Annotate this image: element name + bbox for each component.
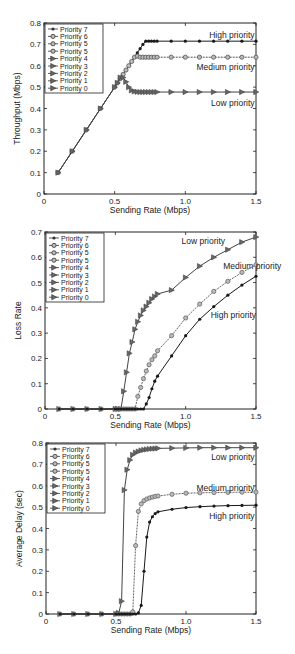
dot-marker — [126, 612, 129, 615]
dot-marker — [212, 504, 215, 507]
dot-marker — [145, 402, 148, 405]
dot-marker — [170, 354, 173, 357]
y-tick-label: 0.8 — [32, 439, 44, 448]
dot-marker — [131, 612, 134, 615]
y-tick-label: 0 — [39, 610, 44, 619]
circle-marker — [141, 377, 145, 381]
dot-marker — [212, 305, 215, 308]
dot-marker — [155, 40, 158, 43]
dot-marker — [100, 407, 103, 410]
circle-marker — [53, 462, 57, 466]
dot-marker — [156, 375, 159, 378]
dot-marker — [86, 612, 89, 615]
dot-marker — [150, 40, 153, 43]
triangle-marker — [240, 89, 245, 94]
x-tick-label: 1.5 — [250, 617, 262, 626]
dot-marker — [100, 612, 103, 615]
triangle-marker — [183, 89, 188, 94]
dot-marker — [128, 612, 131, 615]
dot-marker — [114, 612, 117, 615]
y-axis-label: Loss Rate — [13, 301, 23, 340]
y-tick-label: 0.7 — [31, 228, 43, 237]
dot-marker — [240, 504, 243, 507]
dot-marker — [57, 407, 60, 410]
dot-marker — [86, 407, 89, 410]
circle-marker — [51, 34, 55, 38]
triangle-marker — [211, 89, 216, 94]
circle-marker — [130, 59, 134, 63]
circle-marker — [53, 469, 57, 473]
triangle-marker — [197, 89, 202, 94]
triangle-marker — [128, 458, 133, 463]
y-tick-label: 0.2 — [30, 147, 42, 156]
circle-marker — [169, 55, 173, 59]
circle-marker — [134, 544, 138, 548]
y-tick-label: 0.5 — [32, 503, 44, 512]
triangle-marker — [155, 291, 160, 296]
dot-marker — [134, 612, 137, 615]
circle-marker — [170, 334, 174, 338]
dot-marker — [133, 407, 136, 410]
circle-marker — [155, 349, 159, 353]
circle-marker — [184, 316, 188, 320]
series-annotation: High priority — [211, 310, 257, 320]
series-annotation: Medium priority — [223, 261, 282, 271]
legend-label: Priority 0 — [62, 505, 90, 513]
dot-marker — [226, 294, 229, 297]
average-delay-chart: 00.51.01.500.10.20.30.40.50.60.70.8Sendi… — [14, 439, 262, 635]
x-tick-label: 1.5 — [250, 197, 262, 206]
series-annotation: High priority — [209, 511, 255, 521]
dot-marker — [53, 447, 56, 450]
circle-marker — [240, 55, 244, 59]
y-tick-label: 0.6 — [32, 482, 44, 491]
y-tick-label: 0.8 — [30, 19, 42, 28]
circle-marker — [52, 243, 56, 247]
throughput-chart: 00.51.01.500.10.20.30.40.50.60.70.8Sendi… — [12, 19, 262, 215]
figure: 00.51.01.500.10.20.30.40.50.60.70.8Sendi… — [0, 0, 295, 654]
dot-marker — [148, 520, 151, 523]
dot-marker — [226, 40, 229, 43]
dot-marker — [51, 27, 54, 30]
series-annotation: Low priority — [211, 98, 255, 108]
dot-marker — [147, 40, 150, 43]
y-tick-label: 0.1 — [32, 589, 44, 598]
triangle-marker — [226, 247, 231, 252]
triangle-marker — [225, 89, 230, 94]
legend-label: Priority 0 — [61, 294, 89, 302]
dot-marker — [72, 407, 75, 410]
y-tick-label: 0.5 — [31, 279, 43, 288]
triangle-marker — [169, 89, 174, 94]
dot-marker — [117, 407, 120, 410]
circle-marker — [150, 358, 154, 362]
circle-marker — [127, 64, 131, 68]
dot-marker — [184, 506, 187, 509]
y-tick-label: 0.1 — [30, 169, 42, 178]
triangle-marker — [212, 445, 217, 450]
dot-marker — [128, 407, 131, 410]
dot-marker — [139, 47, 142, 50]
circle-marker — [226, 55, 230, 59]
dot-marker — [226, 504, 229, 507]
y-tick-label: 0 — [38, 405, 43, 414]
dot-marker — [131, 407, 134, 410]
circle-marker — [53, 454, 57, 458]
circle-marker — [155, 55, 159, 59]
triangle-marker — [240, 240, 245, 245]
loss-rate-chart: 00.51.01.500.10.20.30.40.50.60.7Sending … — [13, 228, 282, 430]
dot-marker — [123, 612, 126, 615]
dot-marker — [150, 387, 153, 390]
dot-marker — [52, 236, 55, 239]
series-annotation: Low priority — [182, 236, 226, 246]
dot-marker — [144, 40, 147, 43]
dot-marker — [145, 535, 148, 538]
dot-marker — [170, 508, 173, 511]
y-axis-label: Average Delay (sec) — [14, 490, 24, 567]
triangle-marker — [226, 445, 231, 450]
dot-marker — [156, 510, 159, 513]
dot-marker — [140, 604, 143, 607]
dot-marker — [139, 407, 142, 410]
series-line — [60, 505, 256, 614]
dot-marker — [117, 612, 120, 615]
circle-marker — [52, 251, 56, 255]
dot-marker — [151, 515, 154, 518]
